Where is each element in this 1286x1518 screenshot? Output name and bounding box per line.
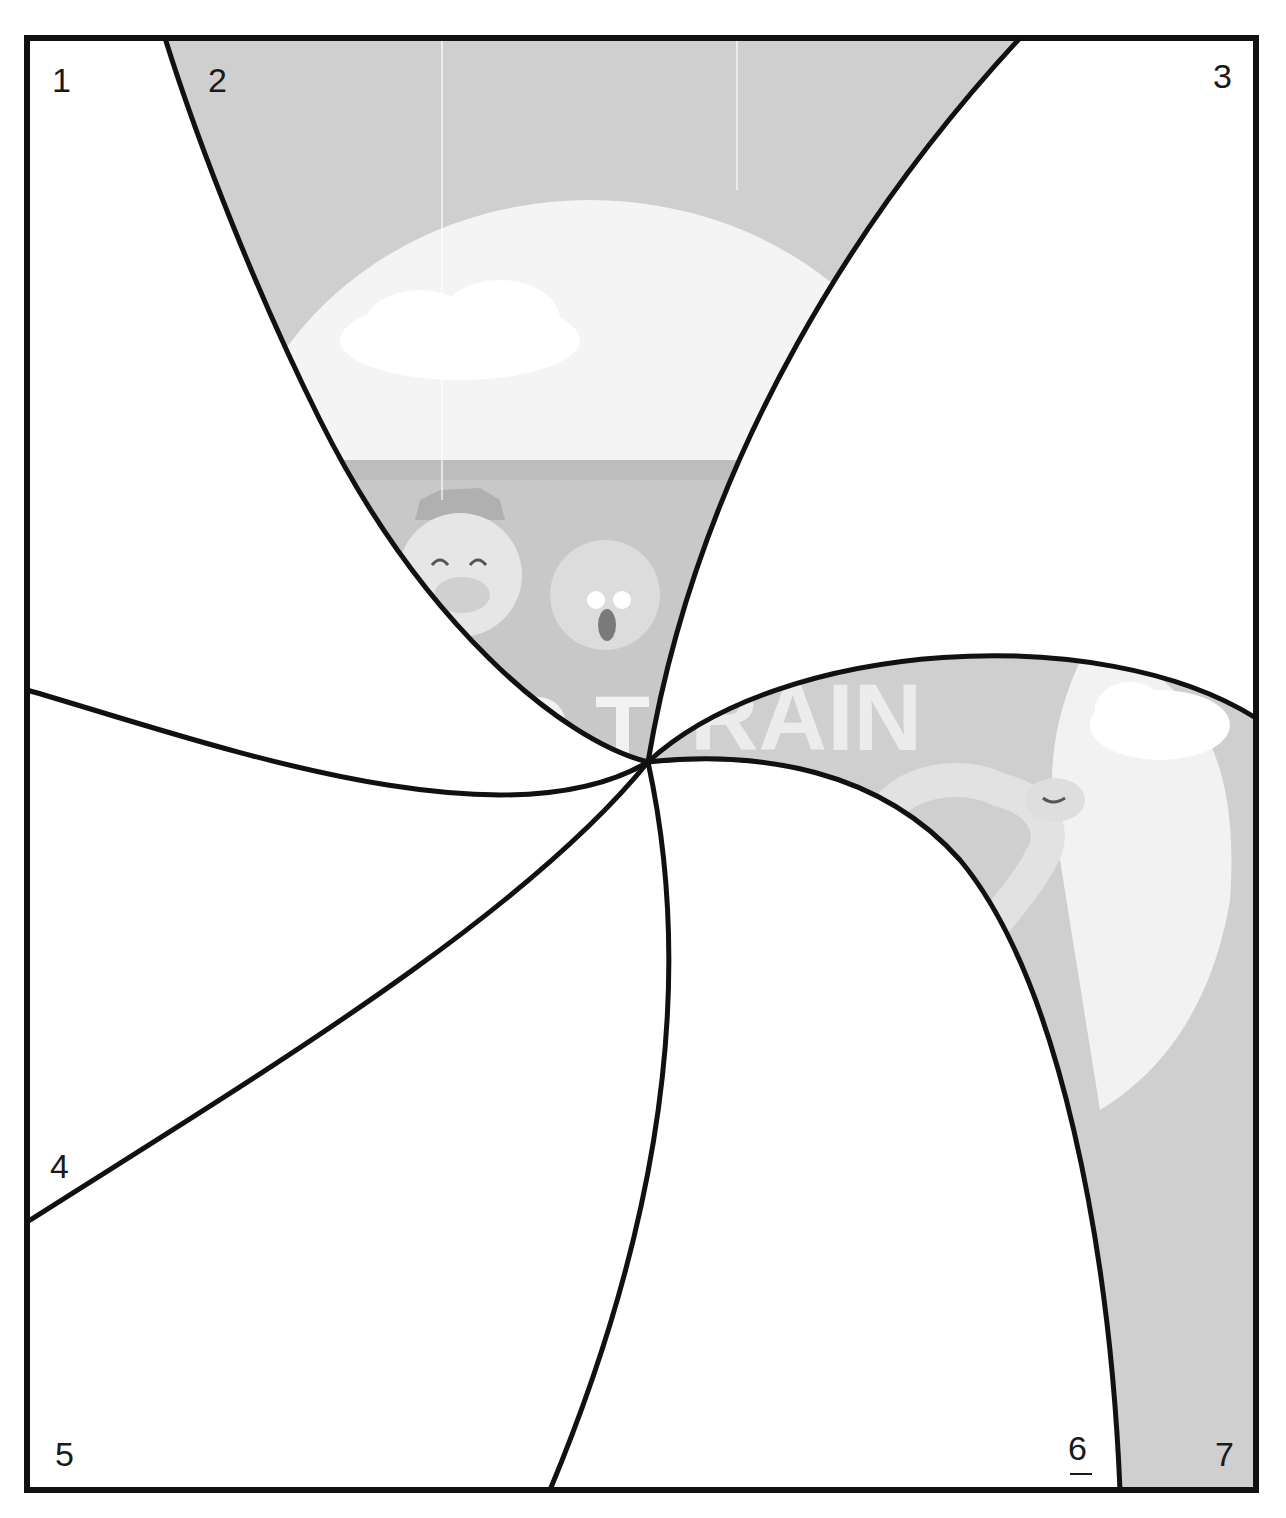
region-label-5: 5: [55, 1435, 74, 1473]
diagram-canvas: O T RAIN 1 2 3 4: [0, 0, 1286, 1518]
koala-figure: [550, 540, 660, 650]
region-label-2: 2: [208, 61, 227, 99]
region-label-4: 4: [50, 1147, 69, 1185]
region-label-3: 3: [1213, 57, 1232, 95]
region-label-7: 7: [1215, 1435, 1234, 1473]
curve-4-5: [27, 762, 648, 1222]
region-label-1: 1: [52, 61, 71, 99]
curve-5-6: [550, 762, 669, 1490]
region-label-6: 6: [1068, 1429, 1087, 1467]
